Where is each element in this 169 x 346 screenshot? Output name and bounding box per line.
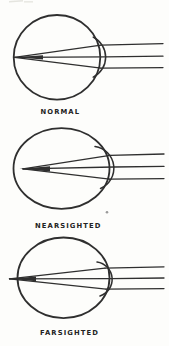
refracted-ray-bottom (10, 279, 107, 289)
eye-diagram-farsighted: FARSIGHTED (10, 237, 165, 336)
refracted-ray-bottom (23, 169, 110, 179)
light-ray-middle (114, 166, 164, 167)
paper-smudge (9, 0, 33, 3)
light-ray-top (101, 44, 163, 46)
refracted-ray-bottom (15, 57, 102, 68)
light-ray-top (110, 154, 164, 155)
eye-diagram-nearsighted: NEARSIGHTED (14, 128, 165, 230)
refracted-ray-top (10, 268, 106, 279)
eye-focus-figure: NORMAL NEARSIGHTED FARS (0, 0, 169, 346)
label-normal: NORMAL (41, 108, 81, 116)
light-ray-middle (106, 56, 163, 57)
refracted-ray-top (15, 45, 102, 57)
label-nearsighted: NEARSIGHTED (35, 222, 102, 230)
light-ray-middle (112, 278, 164, 279)
eye-diagram-normal: NORMAL (14, 15, 163, 116)
light-ray-bottom (110, 179, 165, 180)
print-speck (106, 211, 109, 214)
textbook-figure-page: NORMAL NEARSIGHTED FARS (0, 0, 169, 346)
label-farsighted: FARSIGHTED (40, 329, 99, 337)
light-ray-top (105, 267, 164, 268)
light-ray-bottom (106, 289, 164, 290)
light-ray-bottom (101, 68, 163, 69)
